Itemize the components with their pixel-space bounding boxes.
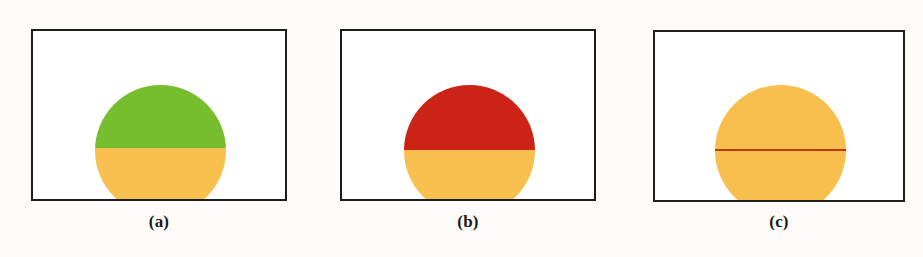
panel-a-caption: (a) bbox=[31, 213, 287, 230]
panel-b-canvas bbox=[342, 31, 594, 199]
panel-b-frame bbox=[340, 29, 596, 201]
panel-c-diameter-line bbox=[715, 149, 846, 151]
panel-c-caption: (c) bbox=[653, 213, 905, 230]
panel-c-circle-top-half bbox=[715, 85, 846, 150]
panel-a-canvas bbox=[33, 31, 285, 199]
panel-a-circle bbox=[95, 85, 226, 199]
panel-b-circle bbox=[404, 85, 535, 199]
panel-c-circle bbox=[715, 85, 846, 200]
panel-c-frame bbox=[653, 30, 905, 202]
panel-c-circle-bottom-half bbox=[715, 150, 846, 200]
panel-b-caption: (b) bbox=[340, 213, 596, 230]
panel-a-circle-top-half bbox=[95, 85, 226, 148]
panel-b-circle-top-half bbox=[404, 85, 535, 150]
figure-root: (a) (b) (c) bbox=[0, 0, 923, 257]
panel-a-frame bbox=[31, 29, 287, 201]
panel-b-circle-bottom-half bbox=[404, 150, 535, 199]
panel-c-canvas bbox=[655, 32, 903, 200]
panel-a-circle-bottom-half bbox=[95, 148, 226, 199]
